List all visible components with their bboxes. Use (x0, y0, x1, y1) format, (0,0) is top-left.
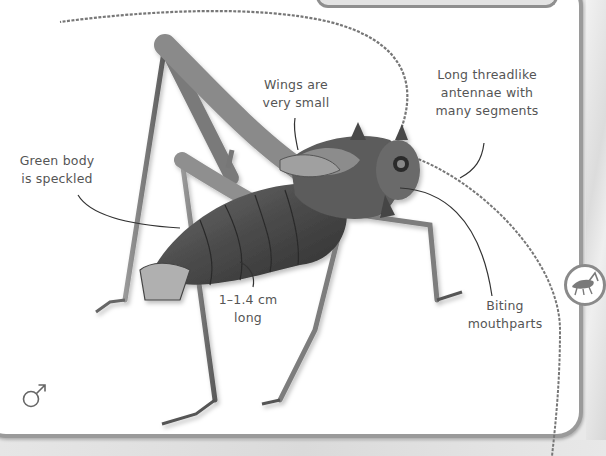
label-body-line1: Green body (14, 152, 100, 170)
male-symbol-icon (20, 380, 50, 410)
label-mouthparts: Biting mouthparts (460, 297, 550, 333)
label-antennae: Long threadlike antennae with many segme… (428, 66, 546, 120)
label-body-line2: is speckled (14, 170, 100, 188)
label-antennae-line1: Long threadlike (428, 66, 546, 84)
leader-body (78, 195, 180, 228)
label-size: 1–1.4 cm long (214, 291, 282, 327)
label-mouthparts-line1: Biting (460, 297, 550, 315)
cricket-badge (564, 264, 606, 306)
label-size-line2: long (214, 309, 282, 327)
label-wings-line2: very small (256, 94, 336, 112)
leader-antennae (460, 143, 484, 178)
leader-mouthparts (400, 188, 492, 296)
label-antennae-line2: antennae with (428, 84, 546, 102)
cricket-silhouette-icon (567, 267, 603, 303)
label-wings: Wings are very small (256, 76, 336, 112)
label-wings-line1: Wings are (256, 76, 336, 94)
leader-wings (294, 118, 298, 150)
label-antennae-line3: many segments (428, 102, 546, 120)
label-size-line1: 1–1.4 cm (214, 291, 282, 309)
label-body: Green body is speckled (14, 152, 100, 188)
label-mouthparts-line2: mouthparts (460, 315, 550, 333)
